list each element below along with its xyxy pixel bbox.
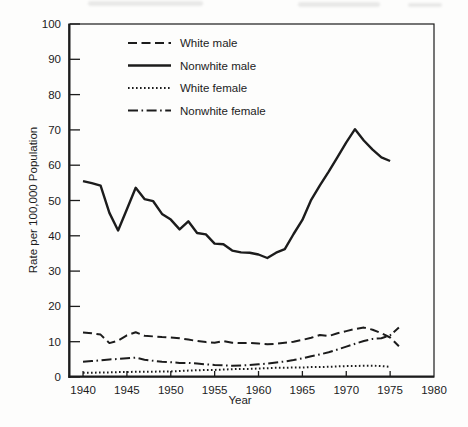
y-tick-label: 100 (42, 18, 61, 30)
scan-artifact (408, 3, 442, 7)
x-tick-label: 1965 (290, 384, 316, 396)
y-axis-title: Rate per 100,000 Population (27, 127, 39, 273)
y-tick-label: 60 (48, 159, 61, 171)
x-axis-title: Year (228, 394, 251, 406)
y-tick-label: 20 (48, 300, 61, 312)
plot-frame (69, 24, 435, 378)
plot-box (69, 24, 434, 377)
y-tick-label: 90 (48, 53, 61, 65)
legend-label-nonwhite-female: Nonwhite female (180, 105, 266, 117)
x-tick-label: 1975 (377, 384, 403, 396)
scan-artifact (88, 1, 203, 6)
line-chart: 0102030405060708090100194019451950195519… (0, 0, 468, 427)
y-tick-label: 70 (48, 124, 61, 136)
x-tick-label: 1950 (158, 384, 184, 396)
legend-label-white-male: White male (180, 37, 238, 49)
x-tick-label: 1970 (333, 384, 359, 396)
series-lines (83, 129, 399, 373)
legend-label-white-female: White female (180, 82, 247, 94)
legend-item-white-male: White male (128, 37, 238, 49)
y-tick-label: 10 (48, 336, 61, 348)
legend-item-white-female: White female (128, 82, 247, 94)
scan-artifact (298, 2, 380, 7)
legend: White maleNonwhite maleWhite femaleNonwh… (128, 37, 266, 117)
series-line-nonwhite-female (83, 328, 399, 366)
series-line-nonwhite-male (83, 129, 390, 258)
y-tick-label: 0 (55, 371, 61, 383)
y-tick-label: 50 (48, 195, 61, 207)
x-tick-label: 1940 (70, 384, 96, 396)
y-tick-label: 40 (48, 230, 61, 242)
x-tick-label: 1980 (421, 384, 447, 396)
y-tick-label: 80 (48, 89, 61, 101)
x-tick-label: 1945 (114, 384, 140, 396)
axis-ticks: 0102030405060708090100194019451950195519… (42, 18, 447, 396)
legend-label-nonwhite-male: Nonwhite male (180, 60, 256, 72)
legend-item-nonwhite-female: Nonwhite female (128, 105, 266, 117)
legend-item-nonwhite-male: Nonwhite male (128, 60, 256, 72)
x-tick-label: 1955 (202, 384, 228, 396)
series-line-white-female (83, 366, 390, 373)
y-tick-label: 30 (48, 265, 61, 277)
figure-canvas: 0102030405060708090100194019451950195519… (0, 0, 468, 427)
series-line-white-male (83, 328, 399, 347)
